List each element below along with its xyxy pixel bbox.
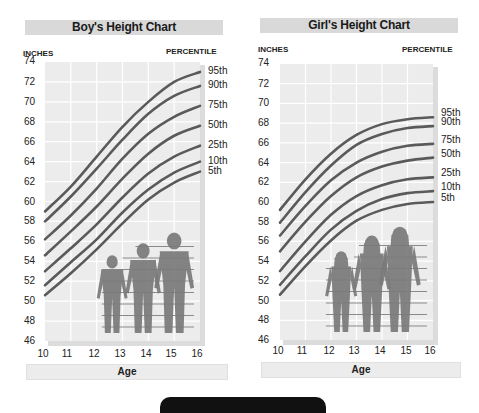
x-tick-label: 16 (191, 348, 203, 359)
x-tick-label: 14 (140, 348, 152, 359)
x-tick-label: 16 (424, 345, 436, 356)
percentile-label: 5th (208, 165, 222, 176)
x-tick-label: 12 (88, 348, 100, 359)
percentile-label: 25th (208, 139, 227, 150)
y-tick-label: 74 (24, 55, 36, 66)
percentile-label: 75th (441, 134, 460, 145)
y-tick-label: 64 (24, 156, 36, 167)
y-tick-label: 46 (24, 335, 36, 346)
x-tick-label: 11 (62, 348, 73, 359)
x-tick-label: 15 (400, 345, 412, 356)
percentile-label: 25th (441, 167, 460, 178)
y-tick-label: 56 (258, 235, 270, 246)
boys-height-chart: Boy's Height Chart INCHES PERCENTILE 95t… (0, 0, 240, 405)
girls-plot: 95th90th75th50th25th10th5th4648505254565… (240, 0, 479, 405)
x-tick-label: 13 (348, 345, 360, 356)
percentile-label: 90th (208, 79, 227, 90)
y-tick-label: 68 (258, 117, 270, 128)
percentile-label: 95th (208, 65, 227, 76)
percentile-label: 75th (208, 99, 227, 110)
y-tick-label: 60 (258, 196, 270, 207)
percentile-label: 10th (441, 181, 460, 192)
girls-x-axis-label: Age (261, 362, 461, 378)
percentile-label: 50th (208, 119, 227, 130)
y-tick-label: 74 (258, 57, 270, 68)
percentile-label: 5th (441, 192, 455, 203)
y-tick-label: 58 (258, 216, 270, 227)
x-tick-label: 13 (114, 348, 126, 359)
y-tick-label: 56 (24, 235, 36, 246)
y-tick-label: 68 (24, 116, 36, 127)
y-tick-label: 60 (24, 196, 36, 207)
girls-height-chart: Girl's Height Chart INCHES PERCENTILE 95… (240, 0, 479, 405)
percentile-label: 50th (441, 148, 460, 159)
y-tick-label: 66 (24, 136, 36, 147)
x-tick-label: 11 (297, 345, 308, 356)
x-tick-label: 15 (165, 348, 177, 359)
y-tick-label: 70 (258, 97, 270, 108)
y-tick-label: 52 (258, 275, 270, 286)
y-tick-label: 50 (24, 295, 36, 306)
boys-x-axis-label: Age (26, 364, 228, 380)
y-tick-label: 66 (258, 137, 270, 148)
x-tick-label: 14 (374, 345, 386, 356)
y-tick-label: 62 (258, 176, 270, 187)
x-tick-label: 10 (272, 345, 284, 356)
bottom-dark-tab (160, 397, 326, 413)
y-tick-label: 64 (258, 157, 270, 168)
y-tick-label: 54 (24, 255, 36, 266)
y-tick-label: 58 (24, 215, 36, 226)
y-tick-label: 50 (258, 295, 270, 306)
y-tick-label: 48 (24, 315, 36, 326)
y-tick-label: 46 (258, 334, 270, 345)
percentile-label: 90th (441, 116, 460, 127)
y-tick-label: 52 (24, 275, 36, 286)
y-tick-label: 72 (258, 78, 270, 89)
x-tick-label: 12 (323, 345, 335, 356)
boys-plot: 95th90th75th50th25th10th5th4648505254565… (0, 0, 240, 405)
x-tick-label: 10 (37, 348, 49, 359)
y-tick-label: 72 (24, 76, 36, 87)
y-tick-label: 48 (258, 314, 270, 325)
y-tick-label: 62 (24, 176, 36, 187)
y-tick-label: 70 (24, 96, 36, 107)
y-tick-label: 54 (258, 255, 270, 266)
